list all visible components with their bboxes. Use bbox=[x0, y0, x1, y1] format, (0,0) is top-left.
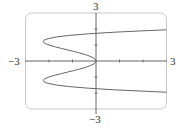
x-min-label: −3 bbox=[8, 55, 20, 67]
y-max-label: 3 bbox=[93, 0, 99, 12]
x-max-label: 3 bbox=[170, 55, 176, 67]
y-min-label: −3 bbox=[89, 113, 101, 125]
chart: −3 3 3 −3 bbox=[0, 0, 182, 135]
